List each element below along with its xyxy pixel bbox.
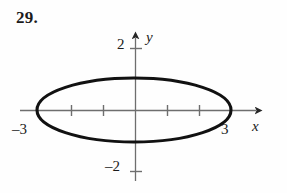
y-axis-tick-label-2: 2 [117,36,125,53]
y-axis-label: y [146,29,153,46]
coordinate-plot [0,0,287,193]
x-intercept-label-3: 3 [221,121,229,138]
x-intercept-label-minus-3: –3 [12,121,27,138]
y-axis-tick-label-minus-2: –2 [105,158,120,175]
graph-figure: 29. y x 2 –2 –3 3 [0,0,287,193]
x-axis-label: x [252,118,259,135]
